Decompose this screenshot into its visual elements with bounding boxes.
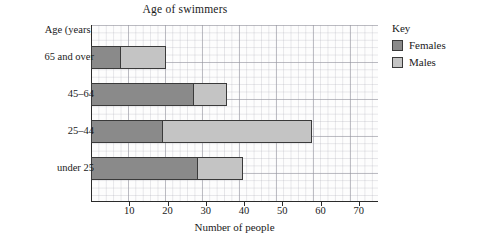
chart-container: Age of swimmers Age (years) 102030405060… (0, 0, 477, 244)
y-category-label: 45–64 (68, 88, 94, 99)
x-tick-label: 40 (229, 205, 259, 216)
bar-segment-males (120, 46, 166, 69)
x-tick-label: 20 (153, 205, 183, 216)
x-tick-label: 10 (114, 205, 144, 216)
bar-row (91, 83, 227, 106)
legend-title: Key (392, 22, 446, 34)
x-tick-label: 50 (267, 205, 297, 216)
legend-item: Males (392, 56, 446, 68)
bar-segment-females (91, 83, 194, 106)
chart-title: Age of swimmers (0, 3, 370, 15)
y-category-label: 25–44 (68, 125, 94, 136)
legend: Key FemalesMales (392, 22, 446, 73)
x-tick-label: 60 (306, 205, 336, 216)
x-tick-label: 70 (344, 205, 374, 216)
legend-label: Females (409, 39, 446, 51)
y-axis-header: Age (years) (45, 24, 94, 35)
legend-swatch-icon (392, 57, 403, 68)
bar-segment-females (91, 157, 198, 180)
x-tick-label: 30 (191, 205, 221, 216)
legend-items: FemalesMales (392, 39, 446, 68)
legend-label: Males (409, 56, 436, 68)
bar-segment-males (162, 120, 311, 143)
bar-segment-males (193, 83, 227, 106)
legend-swatch-icon (392, 40, 403, 51)
y-category-label: under 25 (57, 162, 94, 173)
x-axis-title: Number of people (91, 221, 378, 233)
bar-segment-females (91, 120, 164, 143)
bar-row (91, 157, 243, 180)
bar-segment-females (91, 46, 122, 69)
bar-row (91, 46, 166, 69)
bar-row (91, 120, 312, 143)
bar-segment-males (197, 157, 243, 180)
x-axis-line (91, 201, 378, 202)
plot-area (91, 25, 378, 202)
y-category-label: 65 and over (44, 51, 94, 62)
legend-item: Females (392, 39, 446, 51)
